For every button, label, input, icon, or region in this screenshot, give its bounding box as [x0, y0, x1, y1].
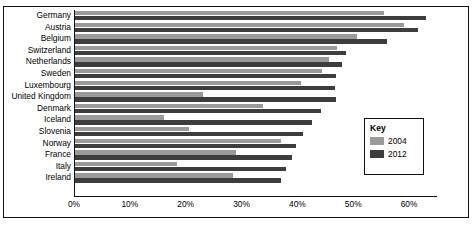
legend-label-2012: 2012	[388, 149, 407, 159]
bar-group	[75, 56, 437, 68]
bar-2004	[75, 150, 236, 154]
bar-2004	[75, 173, 233, 177]
bar-2012	[75, 167, 286, 171]
x-tick-label: 60%	[401, 199, 418, 209]
bar-group	[75, 68, 437, 80]
bar-2004	[75, 115, 164, 119]
bar-2012	[75, 155, 292, 159]
bar-2012	[75, 144, 296, 148]
bar-2004	[75, 11, 384, 15]
bar-2004	[75, 34, 357, 38]
category-label: Germany	[0, 10, 74, 22]
bar-2004	[75, 23, 404, 27]
bar-group	[75, 45, 437, 57]
bar-2004	[75, 92, 203, 96]
bar-2004	[75, 81, 301, 85]
legend-box: Key 2004 2012	[364, 118, 424, 175]
legend-label-2004: 2004	[388, 136, 407, 146]
category-label: Luxembourg	[0, 80, 74, 92]
x-axis-line	[74, 196, 437, 197]
bar-2004	[75, 162, 177, 166]
legend-item-2012: 2012	[370, 149, 423, 159]
bar-2012	[75, 39, 387, 43]
bar-chart: GermanyAustriaBelgiumSwitzerlandNetherla…	[0, 0, 473, 231]
category-label: Sweden	[0, 68, 74, 80]
x-tick-label: 50%	[345, 199, 362, 209]
x-axis-tick-labels: 0%10%20%30%40%50%60%	[74, 199, 437, 213]
legend-title: Key	[370, 123, 423, 133]
category-label: Iceland	[0, 114, 74, 126]
x-tick-label: 20%	[177, 199, 194, 209]
bar-2012	[75, 51, 346, 55]
legend-item-2004: 2004	[370, 136, 423, 146]
bar-2012	[75, 62, 342, 66]
bar-2004	[75, 139, 281, 143]
bar-2004	[75, 104, 263, 108]
category-label: Switzerland	[0, 45, 74, 57]
bar-group	[75, 33, 437, 45]
category-label: France	[0, 149, 74, 161]
legend-swatch-2012	[370, 150, 384, 158]
bar-2012	[75, 120, 312, 124]
bar-2012	[75, 109, 321, 113]
bar-2004	[75, 69, 322, 73]
category-label: Norway	[0, 138, 74, 150]
category-label: Denmark	[0, 103, 74, 115]
category-axis: GermanyAustriaBelgiumSwitzerlandNetherla…	[0, 10, 74, 196]
category-label: Belgium	[0, 33, 74, 45]
bar-2012	[75, 97, 336, 101]
x-tick-label: 10%	[121, 199, 138, 209]
bar-2012	[75, 178, 281, 182]
bar-group	[75, 80, 437, 92]
bar-2004	[75, 127, 189, 131]
category-label: Slovenia	[0, 126, 74, 138]
legend-swatch-2004	[370, 137, 384, 145]
bar-2012	[75, 86, 335, 90]
bar-group	[75, 22, 437, 34]
x-tick-label: 40%	[289, 199, 306, 209]
bar-2012	[75, 132, 303, 136]
category-label: United Kingdom	[0, 91, 74, 103]
bar-2012	[75, 28, 418, 32]
bar-group	[75, 10, 437, 22]
bar-2012	[75, 16, 426, 20]
category-label: Ireland	[0, 172, 74, 184]
x-tick-label: 30%	[233, 199, 250, 209]
bar-2004	[75, 57, 329, 61]
x-tick-label: 0%	[68, 199, 80, 209]
bar-2012	[75, 74, 336, 78]
bar-2004	[75, 46, 337, 50]
category-label: Austria	[0, 22, 74, 34]
bar-group	[75, 103, 437, 115]
bar-group	[75, 91, 437, 103]
category-label: Italy	[0, 161, 74, 173]
category-label: Netherlands	[0, 56, 74, 68]
